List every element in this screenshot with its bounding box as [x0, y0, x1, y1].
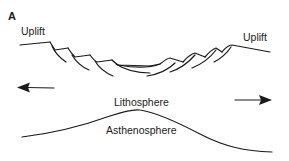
uplift-label-left: Uplift [21, 26, 45, 37]
rift-diagram: A Uplift Uplift Lithosphere Asthenospher… [0, 0, 289, 161]
uplift-label-right: Uplift [243, 32, 267, 43]
asthenosphere-label: Asthenosphere [106, 125, 177, 136]
lithosphere-label: Lithosphere [114, 97, 169, 108]
fault-block-surface [20, 42, 270, 76]
extension-arrow-right [235, 95, 272, 105]
panel-label: A [8, 11, 16, 22]
extension-arrow-left [17, 83, 54, 93]
